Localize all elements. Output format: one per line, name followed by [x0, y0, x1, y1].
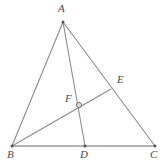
vertex-markers-group	[11, 21, 157, 148]
vertex-label-A: A	[58, 3, 65, 14]
segment-side-AB	[12, 22, 63, 146]
segment-cevian-AD	[63, 22, 85, 146]
geometry-figure: A B C D E F	[0, 0, 165, 165]
segments-group	[12, 22, 155, 146]
vertex-label-E: E	[117, 74, 124, 85]
vertex-label-C: C	[150, 149, 157, 160]
segment-cevian-BE	[12, 89, 111, 146]
vertex-dot-A	[62, 21, 65, 24]
segment-side-AC	[63, 22, 155, 146]
vertex-label-B: B	[7, 149, 14, 160]
geometry-canvas	[0, 0, 165, 165]
vertex-label-D: D	[80, 149, 88, 160]
vertex-label-F: F	[65, 93, 72, 104]
intersection-ring-F	[76, 102, 81, 107]
